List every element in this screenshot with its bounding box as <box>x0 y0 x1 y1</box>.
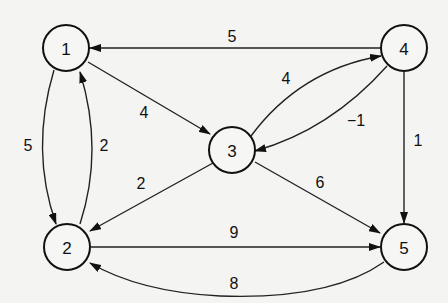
edge-1-to-2 <box>42 70 56 224</box>
weight-label-3-2: 2 <box>137 175 146 192</box>
weight-label-4-1: 5 <box>228 28 237 45</box>
weight-label-5-2: 8 <box>230 275 239 292</box>
node-4-label: 4 <box>399 40 408 59</box>
edge-3-to-2 <box>90 163 213 231</box>
node-5: 5 <box>381 224 427 270</box>
node-5-label: 5 <box>399 239 408 258</box>
weight-label-3-4: 4 <box>282 70 291 87</box>
node-1: 1 <box>43 25 89 71</box>
weight-label-4-3: −1 <box>347 112 365 129</box>
weight-label-3-5: 6 <box>316 174 325 191</box>
edge-2-to-1 <box>80 72 92 224</box>
node-2-label: 2 <box>62 239 71 258</box>
node-3-label: 3 <box>227 142 236 161</box>
weight-label-2-5: 9 <box>230 224 239 241</box>
weight-label-2-1: 2 <box>100 137 109 154</box>
node-2: 2 <box>44 224 90 270</box>
weight-label-1-3: 4 <box>140 104 149 121</box>
weight-label-4-5: 1 <box>414 132 423 149</box>
edge-1-to-3 <box>88 62 210 134</box>
graph-svg: 5 4 5 2 4 −1 2 6 1 9 8 1 2 3 4 5 <box>0 0 448 303</box>
node-4: 4 <box>381 25 427 71</box>
graph-diagram: 5 4 5 2 4 −1 2 6 1 9 8 1 2 3 4 5 <box>0 0 448 303</box>
node-3: 3 <box>209 127 255 173</box>
weight-label-1-2: 5 <box>24 137 33 154</box>
node-1-label: 1 <box>61 40 70 59</box>
